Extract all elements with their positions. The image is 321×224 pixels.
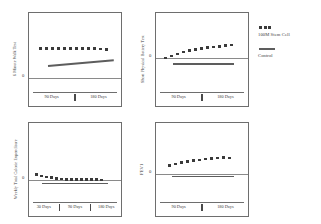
x-axis-ticks: 30 Days 90 Days 180 Days (29, 204, 121, 211)
plot-frame: 30 Days 90 Days 180 Days (28, 122, 122, 217)
y-zero-tick-label: 0 (149, 54, 151, 59)
plot-frame: 90 Days 180 Days (155, 12, 249, 107)
y-axis-label: 6 Minute Walk Test (10, 12, 21, 107)
x-axis-rule (160, 202, 244, 203)
zero-reference-line (29, 180, 121, 181)
zero-reference-line (156, 58, 248, 59)
plot-frame: 90 Days 180 Days (28, 12, 122, 107)
x-axis-rule (160, 92, 244, 93)
x-tick-label: 180 Days (203, 205, 248, 209)
chart-panel-six-minute-walk-test: 6 Minute Walk Test 0 90 Days (10, 12, 122, 107)
y-axis-label: Weekly Total Calorie Expenditure (10, 122, 21, 217)
y-zero-tick-label: 0 (22, 176, 24, 181)
x-axis-ticks: 90 Days 180 Days (156, 94, 248, 101)
x-tick-label: 90 Days (60, 205, 90, 209)
chart-panel-fev1: FEV1 0 90 Days 180 D (137, 122, 249, 217)
legend-entry-stem-cell: 100M Stem Cell (258, 26, 318, 37)
x-tick-label: 180 Days (76, 95, 121, 99)
x-axis-ticks: 90 Days 180 Days (29, 94, 121, 101)
x-tick-label: 30 Days (29, 205, 59, 209)
y-axis-label: FEV1 (137, 122, 148, 217)
y-zero-tick-label: 0 (22, 74, 24, 79)
x-tick-label: 90 Days (156, 95, 201, 99)
chart-panel-weekly-total-calorie-expenditure: Weekly Total Calorie Expenditure 0 (10, 122, 122, 217)
series-control (173, 63, 234, 65)
series-control (42, 183, 108, 185)
chart-panel-short-physical-battery-test: Short Physical Battery Test 0 (137, 12, 249, 107)
solid-line-marker-icon (259, 48, 275, 50)
x-tick-label: 180 Days (91, 205, 121, 209)
series-control (172, 176, 234, 178)
dotted-square-marker-icon (258, 26, 318, 29)
legend-entry-control: Control (258, 48, 318, 59)
x-axis-rule (33, 92, 117, 93)
legend-label: Control (258, 54, 318, 59)
x-axis-rule (33, 202, 117, 203)
x-tick-label: 90 Days (156, 205, 201, 209)
x-tick-label: 90 Days (29, 95, 74, 99)
x-tick-label: 180 Days (203, 95, 248, 99)
zero-reference-line (29, 78, 121, 79)
series-control (48, 59, 114, 67)
y-zero-tick-label: 0 (149, 170, 151, 175)
chart-legend: 100M Stem Cell Control (258, 26, 318, 70)
y-axis-label: Short Physical Battery Test (137, 12, 148, 107)
legend-label: 100M Stem Cell (258, 33, 318, 38)
x-axis-ticks: 90 Days 180 Days (156, 204, 248, 211)
figure-canvas: 6 Minute Walk Test 0 90 Days (0, 0, 321, 224)
plot-frame: 90 Days 180 Days (155, 122, 249, 217)
